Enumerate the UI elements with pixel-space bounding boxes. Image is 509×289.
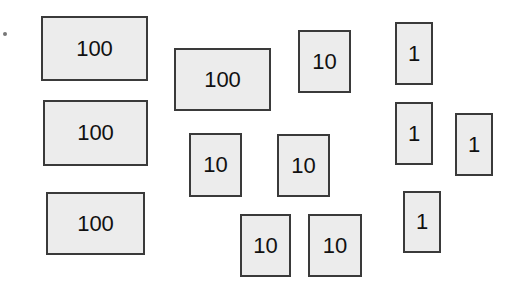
block-label: 100 bbox=[204, 67, 241, 93]
block-label: 100 bbox=[77, 120, 114, 146]
bullet-dot bbox=[3, 32, 7, 36]
block-label: 1 bbox=[416, 209, 428, 235]
block-label: 100 bbox=[76, 36, 113, 62]
block-10: 10 bbox=[277, 134, 330, 197]
block-label: 100 bbox=[77, 211, 114, 237]
block-100: 100 bbox=[43, 100, 148, 166]
block-100: 100 bbox=[46, 192, 145, 255]
block-label: 10 bbox=[312, 49, 336, 75]
block-label: 10 bbox=[323, 233, 347, 259]
block-label: 10 bbox=[203, 152, 227, 178]
block-1: 1 bbox=[395, 102, 433, 165]
block-100: 100 bbox=[174, 48, 271, 111]
block-label: 1 bbox=[468, 132, 480, 158]
block-1: 1 bbox=[395, 22, 433, 85]
block-10: 10 bbox=[298, 30, 351, 93]
block-label: 1 bbox=[408, 41, 420, 67]
block-1: 1 bbox=[455, 113, 493, 176]
block-label: 10 bbox=[291, 153, 315, 179]
block-10: 10 bbox=[240, 214, 291, 277]
block-label: 10 bbox=[253, 233, 277, 259]
block-10: 10 bbox=[189, 133, 242, 197]
block-10: 10 bbox=[308, 214, 362, 277]
block-label: 1 bbox=[408, 121, 420, 147]
block-100: 100 bbox=[41, 16, 148, 81]
block-1: 1 bbox=[403, 191, 441, 253]
